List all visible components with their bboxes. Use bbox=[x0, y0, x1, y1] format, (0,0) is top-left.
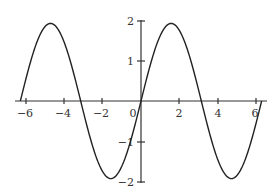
y-tick-label: −2 bbox=[118, 176, 134, 189]
x-tick-label: −6 bbox=[17, 107, 33, 120]
x-tick-label: 4 bbox=[215, 107, 222, 120]
x-tick-label: 0 bbox=[130, 107, 137, 120]
x-tick-label: 2 bbox=[176, 107, 183, 120]
sine-chart: −6 −4 −2 0 2 4 6 2 1 −1 −2 bbox=[0, 0, 278, 195]
x-tick-label: −2 bbox=[93, 107, 109, 120]
y-tick-label: 1 bbox=[127, 55, 134, 68]
y-tick-label: 2 bbox=[127, 15, 134, 28]
x-tick-label: −4 bbox=[55, 107, 71, 120]
